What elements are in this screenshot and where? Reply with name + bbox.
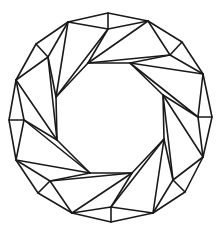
facet-edge (173, 180, 185, 192)
facet-edge (170, 42, 182, 55)
facet-edge (16, 57, 48, 80)
facet-edge (36, 44, 48, 57)
facet-edge (173, 157, 203, 180)
facet-edge (148, 21, 170, 55)
facet-edge (163, 95, 198, 117)
facet-edge (72, 173, 132, 213)
facet-edge (38, 181, 50, 193)
facet-edge (111, 207, 153, 213)
facet-edge (88, 55, 170, 63)
facet-edge (68, 22, 108, 29)
gem-diagram: Brilliant-cut gemstone (top view) (0, 0, 224, 240)
facet-edge (24, 120, 57, 140)
facet-edge (198, 74, 203, 117)
facet-edge (50, 173, 132, 181)
facet-edge (88, 29, 108, 63)
table-octagon (56, 63, 164, 173)
facet-edge (16, 120, 24, 160)
facet-edge (111, 173, 132, 207)
gem-facet-drawing (0, 0, 224, 240)
facet-edge (50, 181, 72, 213)
